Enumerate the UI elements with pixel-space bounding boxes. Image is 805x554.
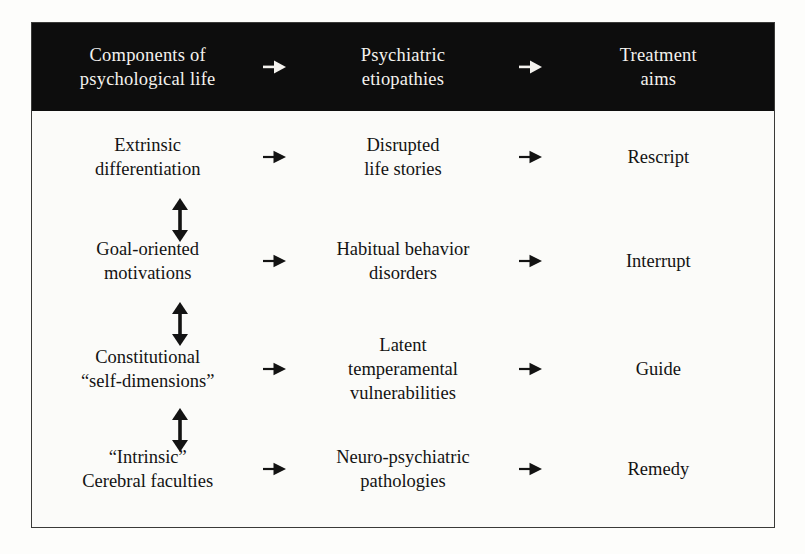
row2-process-line2: disorders — [287, 261, 518, 285]
row1-localization-line2: differentiation — [32, 157, 263, 181]
arrow-right-icon — [263, 60, 287, 74]
row3-implication: Guide — [543, 357, 774, 381]
row4-process: Neuro-psychiatric pathologies — [287, 445, 518, 493]
row3-localization-line2: “self-dimensions” — [32, 369, 263, 393]
header-col1-line1: Components of — [32, 43, 263, 67]
header-column-implications: Treatment aims — [543, 43, 774, 91]
row1-process-line1: Disrupted — [287, 133, 518, 157]
arrow-right-icon — [519, 254, 543, 268]
row1-localization: Extrinsic differentiation — [32, 133, 263, 181]
table-row: Constitutional “self-dimensions” Latent … — [32, 319, 774, 419]
table-row: Goal-oriented motivations Habitual behav… — [32, 215, 774, 307]
header-col2-line2: etiopathies — [287, 67, 518, 91]
row4-localization: “Intrinsic” Cerebral faculties — [32, 445, 263, 493]
header-row: Components of psychological life Psychia… — [32, 23, 774, 111]
figure-header-band: Components of psychological life Psychia… — [32, 23, 774, 111]
row1-arrow-2 — [519, 150, 543, 164]
arrow-right-icon — [263, 254, 287, 268]
figure-body: Extrinsic differentiation Disrupted life… — [32, 111, 774, 526]
row2-arrow-1 — [263, 254, 287, 268]
header-arrow-2 — [519, 60, 543, 74]
row1-localization-line1: Extrinsic — [32, 133, 263, 157]
row2-process-line1: Habitual behavior — [287, 237, 518, 261]
figure-frame: Components of psychological life Psychia… — [31, 22, 775, 528]
row4-implication: Remedy — [543, 457, 774, 481]
arrow-right-icon — [263, 462, 287, 476]
row4-implication-line1: Remedy — [543, 457, 774, 481]
row3-arrow-1 — [263, 362, 287, 376]
row1-process-line2: life stories — [287, 157, 518, 181]
row1-implication: Rescript — [543, 145, 774, 169]
row3-process-line1: Latent — [287, 333, 518, 357]
row4-process-line1: Neuro-psychiatric — [287, 445, 518, 469]
row2-implication-line1: Interrupt — [543, 249, 774, 273]
scanned-page-background: Components of psychological life Psychia… — [0, 0, 805, 554]
row3-process: Latent temperamental vulnerabilities — [287, 333, 518, 405]
table-row: “Intrinsic” Cerebral faculties Neuro-psy… — [32, 423, 774, 515]
header-col1-line2: psychological life — [32, 67, 263, 91]
row1-arrow-1 — [263, 150, 287, 164]
row1-process: Disrupted life stories — [287, 133, 518, 181]
header-column-processes: Psychiatric etiopathies — [287, 43, 518, 91]
row3-arrow-2 — [519, 362, 543, 376]
row3-localization: Constitutional “self-dimensions” — [32, 345, 263, 393]
arrow-right-icon — [519, 60, 543, 74]
row2-arrow-2 — [519, 254, 543, 268]
header-column-localizations: Components of psychological life — [32, 43, 263, 91]
row3-process-line2: temperamental — [287, 357, 518, 381]
header-col3-line2: aims — [543, 67, 774, 91]
row3-implication-line1: Guide — [543, 357, 774, 381]
row4-localization-line1: “Intrinsic” — [32, 445, 263, 469]
row4-arrow-1 — [263, 462, 287, 476]
arrow-right-icon — [519, 362, 543, 376]
arrow-right-icon — [263, 150, 287, 164]
header-col3-line1: Treatment — [543, 43, 774, 67]
row2-localization-line1: Goal-oriented — [32, 237, 263, 261]
arrow-right-icon — [519, 150, 543, 164]
row4-arrow-2 — [519, 462, 543, 476]
row2-localization: Goal-oriented motivations — [32, 237, 263, 285]
table-row: Extrinsic differentiation Disrupted life… — [32, 111, 774, 203]
arrow-right-icon — [263, 362, 287, 376]
row3-localization-line1: Constitutional — [32, 345, 263, 369]
row1-implication-line1: Rescript — [543, 145, 774, 169]
arrow-right-icon — [519, 462, 543, 476]
row2-implication: Interrupt — [543, 249, 774, 273]
row4-localization-line2: Cerebral faculties — [32, 469, 263, 493]
row3-process-line3: vulnerabilities — [287, 381, 518, 405]
row2-process: Habitual behavior disorders — [287, 237, 518, 285]
row2-localization-line2: motivations — [32, 261, 263, 285]
header-col2-line1: Psychiatric — [287, 43, 518, 67]
row4-process-line2: pathologies — [287, 469, 518, 493]
header-arrow-1 — [263, 60, 287, 74]
